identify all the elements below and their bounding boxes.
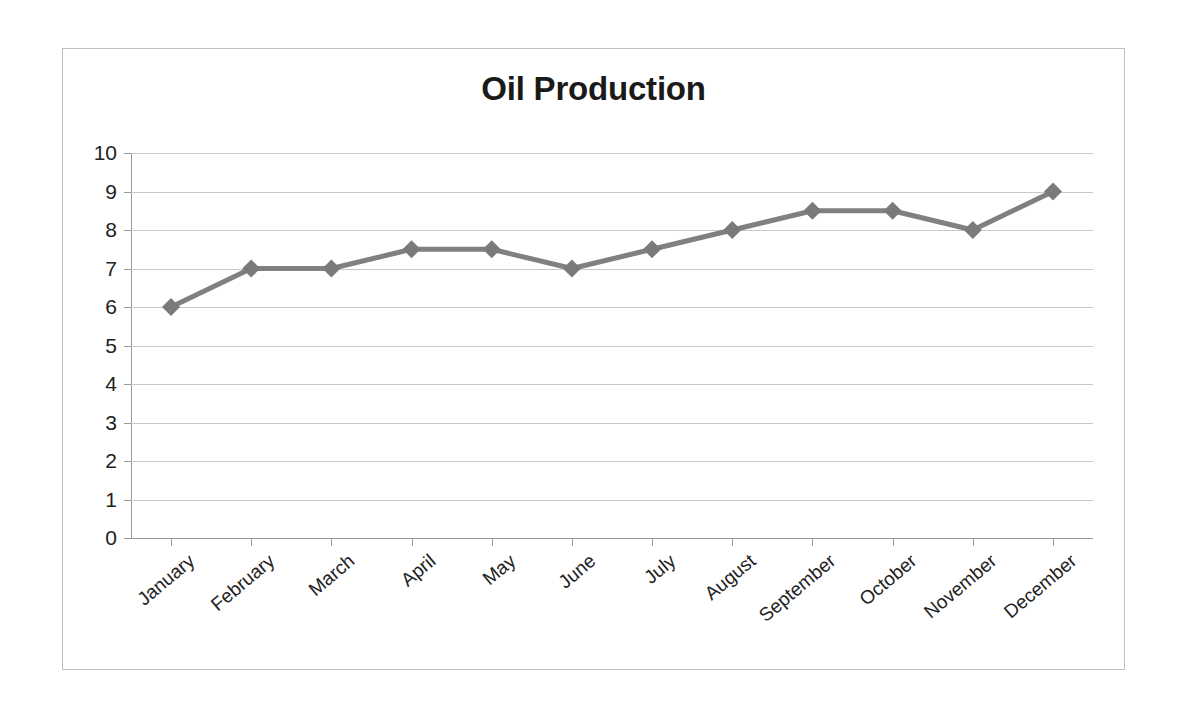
series-markers	[162, 183, 1062, 317]
x-axis-label-april: April	[396, 550, 439, 591]
data-point-march	[322, 260, 340, 278]
data-point-may	[483, 240, 501, 258]
data-point-august	[723, 221, 741, 239]
data-point-september	[803, 202, 821, 220]
x-tick-april	[412, 538, 413, 546]
y-axis-label-6: 6	[105, 295, 117, 319]
y-tick-0	[124, 538, 131, 539]
y-axis-label-4: 4	[105, 372, 117, 396]
y-tick-5	[124, 346, 131, 347]
y-tick-7	[124, 269, 131, 270]
y-axis-label-10: 10	[94, 141, 117, 165]
y-tick-10	[124, 153, 131, 154]
x-tick-september	[812, 538, 813, 546]
x-axis-label-october: October	[855, 550, 921, 610]
data-point-july	[643, 240, 661, 258]
x-axis-label-december: December	[1000, 550, 1081, 623]
x-tick-july	[652, 538, 653, 546]
plot-area: 109876543210 JanuaryFebruaryMarchAprilMa…	[131, 153, 1093, 538]
gridline-0	[131, 538, 1093, 539]
x-axis-label-january: January	[133, 550, 199, 610]
y-axis-label-8: 8	[105, 218, 117, 242]
x-axis-label-march: March	[305, 550, 360, 601]
y-axis-label-0: 0	[105, 526, 117, 550]
data-point-november	[964, 221, 982, 239]
data-point-january	[162, 298, 180, 316]
x-axis-label-july: July	[640, 550, 680, 589]
y-tick-3	[124, 423, 131, 424]
data-point-december	[1044, 183, 1062, 201]
y-axis-label-2: 2	[105, 449, 117, 473]
y-tick-6	[124, 307, 131, 308]
x-tick-february	[251, 538, 252, 546]
x-axis-label-february: February	[207, 550, 279, 616]
series-oil-production	[131, 153, 1093, 538]
x-axis-label-november: November	[920, 550, 1001, 623]
y-axis-label-1: 1	[105, 488, 117, 512]
x-tick-may	[492, 538, 493, 546]
y-tick-2	[124, 461, 131, 462]
y-axis-label-7: 7	[105, 257, 117, 281]
data-point-october	[884, 202, 902, 220]
y-tick-9	[124, 192, 131, 193]
x-tick-june	[572, 538, 573, 546]
y-axis-label-9: 9	[105, 180, 117, 204]
x-axis-label-june: June	[554, 550, 600, 593]
series-line	[171, 192, 1053, 308]
y-tick-8	[124, 230, 131, 231]
x-tick-january	[171, 538, 172, 546]
y-axis-label-5: 5	[105, 334, 117, 358]
y-tick-1	[124, 500, 131, 501]
chart-frame: Oil Production 109876543210 JanuaryFebru…	[62, 48, 1125, 670]
x-tick-march	[331, 538, 332, 546]
chart-title: Oil Production	[63, 69, 1124, 109]
data-point-june	[563, 260, 581, 278]
y-tick-4	[124, 384, 131, 385]
x-axis-label-august: August	[701, 550, 760, 605]
x-axis-label-may: May	[478, 550, 520, 590]
x-axis-label-september: September	[755, 550, 840, 627]
x-tick-august	[732, 538, 733, 546]
data-point-february	[242, 260, 260, 278]
y-axis-label-3: 3	[105, 411, 117, 435]
x-tick-december	[1053, 538, 1054, 546]
x-tick-october	[893, 538, 894, 546]
x-tick-november	[973, 538, 974, 546]
data-point-april	[403, 240, 421, 258]
